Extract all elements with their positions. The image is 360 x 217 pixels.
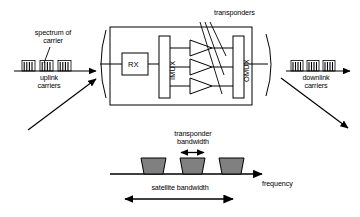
diagram-canvas: spectrum of carrier uplink carriers down… <box>0 0 360 217</box>
uplink-carriers-label: uplink carriers <box>24 74 74 91</box>
imux-block-label: IMUX <box>168 61 177 80</box>
transponder-bandwidth-label: transponder bandwidth <box>157 130 229 147</box>
frequency-label: frequency <box>262 180 314 188</box>
transponder-channel-3 <box>170 78 233 94</box>
spectrum-of-carrier-label: spectrum of carrier <box>22 29 84 46</box>
transponder-channel-1 <box>170 40 233 56</box>
spectrum-trapezoid-1 <box>141 158 166 174</box>
rx-block-label: RX <box>128 60 139 69</box>
spectrum-trapezoid-3 <box>219 158 244 174</box>
omux-block-label: OMUX <box>242 59 251 82</box>
spectrum-trapezoid-2 <box>180 158 205 174</box>
transmit-antenna-arc <box>266 34 271 96</box>
satellite-bandwidth-label: satellite bandwidth <box>132 184 228 192</box>
uplink-carrier-comb <box>22 61 71 72</box>
transponders-label: transponders <box>214 9 284 17</box>
downlink-carriers-label: downlink carriers <box>288 74 344 91</box>
downlink-carrier-comb <box>291 61 335 72</box>
